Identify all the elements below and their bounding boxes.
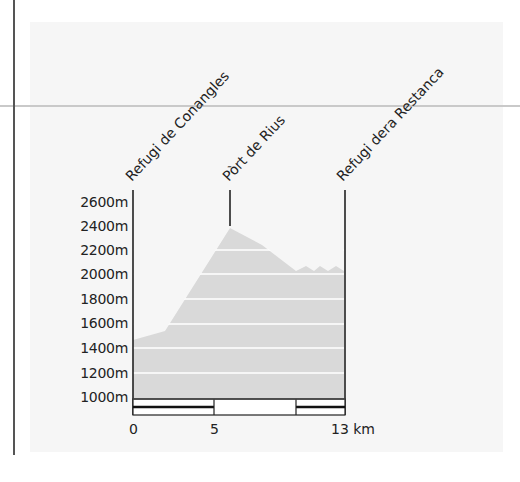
y-tick-1600: 1600m — [54, 315, 128, 331]
y-tick-2600: 2600m — [54, 194, 128, 210]
y-tick-1800: 1800m — [54, 291, 128, 307]
y-tick-1400: 1400m — [54, 340, 128, 356]
x-tick-0: 0 — [129, 421, 138, 437]
y-tick-2200: 2200m — [54, 242, 128, 258]
y-tick-1000: 1000m — [54, 389, 128, 405]
y-tick-2400: 2400m — [54, 218, 128, 234]
y-tick-2000: 2000m — [54, 266, 128, 282]
y-tick-1200: 1200m — [54, 365, 128, 381]
distance-scale-bar — [133, 399, 345, 415]
x-tick-13km: 13 km — [331, 421, 375, 437]
x-tick-5: 5 — [210, 421, 219, 437]
